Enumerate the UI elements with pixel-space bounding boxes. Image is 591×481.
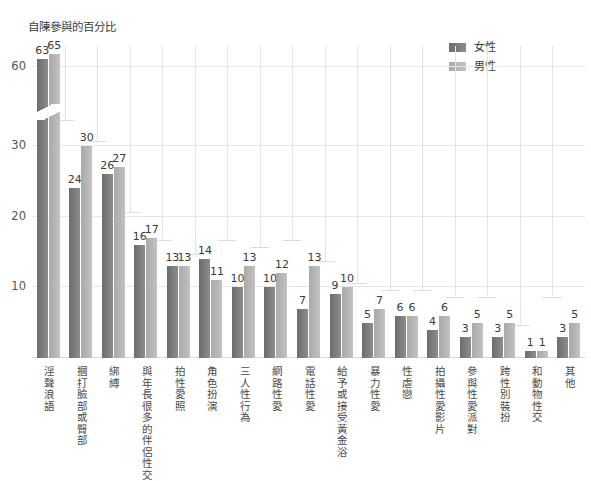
bar xyxy=(427,330,438,358)
bar-value-label: 24 xyxy=(68,173,82,186)
bar xyxy=(504,323,515,358)
bar xyxy=(374,309,385,358)
x-axis-label: 給予或接受黃金浴 xyxy=(335,366,346,452)
bar xyxy=(244,266,255,358)
category-separator xyxy=(97,46,98,141)
x-axis-label: 網路性愛 xyxy=(270,366,281,412)
bar xyxy=(362,323,373,358)
category-separator-cap xyxy=(250,247,269,248)
category-separator-cap xyxy=(218,240,237,241)
bar xyxy=(330,294,341,358)
bar-value-label: 10 xyxy=(263,272,277,285)
bar xyxy=(179,266,190,358)
bar-value-label: 12 xyxy=(275,258,289,271)
bar xyxy=(134,245,145,358)
bar xyxy=(342,287,353,358)
category-separator xyxy=(455,46,456,297)
bar-value-label: 5 xyxy=(506,308,513,321)
category-separator xyxy=(390,46,391,290)
y-axis-tick: 30 xyxy=(11,138,26,152)
bar xyxy=(492,337,503,358)
bar xyxy=(264,287,275,358)
bar-value-label: 6 xyxy=(397,301,404,314)
bar-value-label: 13 xyxy=(308,251,322,264)
category-separator xyxy=(292,46,293,240)
bar-value-label: 5 xyxy=(364,308,371,321)
category-separator xyxy=(325,46,326,261)
bar xyxy=(460,337,471,358)
y-axis-tick: 10 xyxy=(11,279,26,293)
x-axis-label: 跨性別裝扮 xyxy=(498,366,509,424)
bar-value-label: 10 xyxy=(230,272,244,285)
category-separator xyxy=(552,46,553,297)
bar xyxy=(569,323,580,358)
category-separator xyxy=(260,46,261,247)
bar xyxy=(276,273,287,358)
x-axis-label: 三人性行為 xyxy=(238,366,249,424)
category-separator xyxy=(162,46,163,240)
bar xyxy=(211,280,222,358)
bar-value-label: 30 xyxy=(80,131,94,144)
x-axis-label: 角色扮演 xyxy=(205,366,216,412)
bar xyxy=(167,266,178,358)
x-axis-label: 和動物性交 xyxy=(531,366,542,424)
y-axis-tick: 60 xyxy=(11,59,26,73)
category-separator xyxy=(130,46,131,212)
bar-value-label: 5 xyxy=(474,308,481,321)
category-separator-cap xyxy=(543,297,562,298)
x-axis-label: 性虐戀 xyxy=(400,366,411,401)
category-separator xyxy=(65,46,66,120)
x-axis-label: 與年長很多的伴侶性交 xyxy=(140,366,151,452)
x-axis-label: 淫聲浪語 xyxy=(43,366,54,412)
x-axis-label: 拍攝性愛影片 xyxy=(433,366,444,435)
category-separator xyxy=(227,46,228,240)
axis-break-marker xyxy=(33,104,63,120)
bar-value-label: 6 xyxy=(441,301,448,314)
x-axis-label: 參與性愛派對 xyxy=(465,366,476,435)
bar-value-label: 13 xyxy=(242,251,256,264)
bar xyxy=(439,316,450,358)
bar-value-label: 9 xyxy=(332,279,339,292)
x-axis-label: 摑打臉部或臀部 xyxy=(75,366,86,447)
bar-value-label: 4 xyxy=(429,315,436,328)
bar-value-label: 17 xyxy=(145,223,159,236)
bar xyxy=(146,238,157,358)
category-separator xyxy=(487,46,488,297)
bar-value-label: 6 xyxy=(409,301,416,314)
bar xyxy=(537,351,548,358)
x-axis-label: 電話性愛 xyxy=(303,366,314,412)
bar-value-label: 5 xyxy=(571,308,578,321)
category-separator-cap xyxy=(283,240,302,241)
bar xyxy=(102,174,113,358)
bar xyxy=(525,351,536,358)
category-separator xyxy=(422,46,423,290)
bar-value-label: 65 xyxy=(47,39,61,52)
bar-value-label: 13 xyxy=(177,251,191,264)
bar xyxy=(472,323,483,358)
gridline: 60 xyxy=(32,66,585,67)
bar xyxy=(297,309,308,358)
cut-off-title xyxy=(0,0,591,8)
bar-value-label: 10 xyxy=(340,272,354,285)
bar xyxy=(557,337,568,358)
category-separator-cap xyxy=(445,297,464,298)
bar-value-label: 11 xyxy=(210,265,224,278)
category-separator-cap xyxy=(413,290,432,291)
y-axis-tick: 20 xyxy=(11,209,26,223)
bar-value-label: 7 xyxy=(299,294,306,307)
category-separator xyxy=(357,46,358,283)
bar-value-label: 3 xyxy=(494,322,501,335)
bar-value-label: 27 xyxy=(112,152,126,165)
category-separator-cap xyxy=(478,297,497,298)
x-axis-label: 綁縛 xyxy=(108,366,119,389)
x-axis-label: 暴力性愛 xyxy=(368,366,379,412)
bar-value-label: 1 xyxy=(539,336,546,349)
plot-area: 1020306063652430262716171313141110131012… xyxy=(32,46,585,358)
category-separator-cap xyxy=(380,290,399,291)
x-axis-label: 其他 xyxy=(563,366,574,389)
category-separator xyxy=(195,46,196,254)
x-axis-labels: 淫聲浪語摑打臉部或臀部綁縛與年長很多的伴侶性交拍性愛照角色扮演三人性行為網路性愛… xyxy=(32,366,585,452)
bar xyxy=(49,54,60,358)
bar xyxy=(199,259,210,358)
